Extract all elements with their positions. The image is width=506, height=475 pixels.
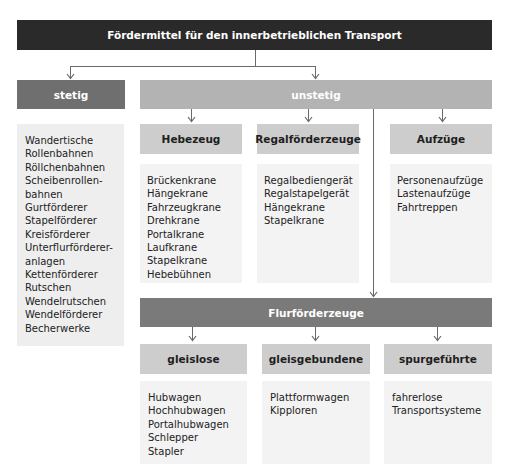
list-item: Becherwerke xyxy=(25,322,112,335)
hebezeug-list: Brückenkrane Hängekrane Fahrzeugkrane Dr… xyxy=(140,164,242,283)
list-item: Lastenaufzüge xyxy=(397,187,480,200)
list-item: Wandertische xyxy=(25,134,112,147)
diagram-title-text: Fördermittel für den innerbetrieblichen … xyxy=(107,29,402,41)
list-item: anlagen xyxy=(25,255,112,268)
category-unstetig: unstetig xyxy=(140,80,492,109)
list-item: Stapelförderer xyxy=(25,214,112,227)
list-item: Fahrzeugkrane xyxy=(147,201,230,214)
list-item: Portalkrane xyxy=(147,228,230,241)
group-gleisgebundene-label: gleisgebundene xyxy=(269,353,363,365)
list-item: Regalstapelgerät xyxy=(264,187,347,200)
group-spurgefuehrte: spurgeführte xyxy=(384,344,492,374)
list-item: Schlepper xyxy=(148,431,235,444)
list-item: Rollenbahnen xyxy=(25,147,112,160)
arrow-down-icon xyxy=(304,114,313,123)
list-item: Gurtförderer xyxy=(25,201,112,214)
list-item: Rutschen xyxy=(25,281,112,294)
group-aufzuege: Aufzüge xyxy=(390,124,492,154)
list-item: Wendelförderer xyxy=(25,308,112,321)
list-item: Brückenkrane xyxy=(147,174,230,187)
list-item: Wendelrutschen xyxy=(25,295,112,308)
list-item: Personenaufzüge xyxy=(397,174,480,187)
list-item: Kreisförderer xyxy=(25,228,112,241)
list-item: Portalhubwagen xyxy=(148,418,235,431)
gleisgebundene-list: Plattformwagen Kipploren xyxy=(262,381,370,464)
list-item: fahrerlose xyxy=(392,391,480,404)
list-item: Transportsysteme xyxy=(392,404,480,417)
arrow-down-icon xyxy=(438,114,447,123)
list-item: Scheibenrollen- xyxy=(25,174,112,187)
arrow-down-icon xyxy=(369,289,378,298)
connector xyxy=(70,66,316,67)
list-item: Stapelkrane xyxy=(264,214,347,227)
group-spurgefuehrte-label: spurgeführte xyxy=(399,353,477,365)
list-item: Hochhubwagen xyxy=(148,404,235,417)
group-hebezeug-label: Hebezeug xyxy=(162,133,221,145)
arrow-down-icon xyxy=(66,71,75,80)
connector xyxy=(255,50,256,67)
arrow-down-icon xyxy=(311,71,320,80)
category-flurfoerderzeuge-label: Flurförderzeuge xyxy=(268,307,364,319)
group-hebezeug: Hebezeug xyxy=(140,124,242,154)
list-item: Laufkrane xyxy=(147,241,230,254)
group-aufzuege-label: Aufzüge xyxy=(417,133,465,145)
arrow-down-icon xyxy=(187,114,196,123)
group-gleislose-label: gleislose xyxy=(167,353,219,365)
list-item: Drehkrane xyxy=(147,214,230,227)
connector xyxy=(373,109,374,296)
list-item: Hubwagen xyxy=(148,391,235,404)
list-item: Hebebühnen xyxy=(147,268,230,281)
list-item: Kettenförderer xyxy=(25,268,112,281)
gleislose-list: Hubwagen Hochhubwagen Portalhubwagen Sch… xyxy=(140,381,247,464)
list-item: Hängekrane xyxy=(147,187,230,200)
group-gleisgebundene: gleisgebundene xyxy=(262,344,370,374)
list-item: Unterflurförderer- xyxy=(25,241,112,254)
stetig-list: Wandertische Rollenbahnen Röllchenbahnen… xyxy=(17,124,124,346)
regalfoerderzeuge-list: Regalbediengerät Regalstapelgerät Hängek… xyxy=(257,164,359,283)
category-stetig: stetig xyxy=(17,80,125,109)
list-item: Hängekrane xyxy=(264,201,347,214)
arrow-down-icon xyxy=(433,333,442,342)
group-gleislose: gleislose xyxy=(140,344,247,374)
aufzuege-list: Personenaufzüge Lastenaufzüge Fahrtreppe… xyxy=(390,164,492,283)
list-item: Röllchenbahnen xyxy=(25,161,112,174)
list-item: Stapler xyxy=(148,445,235,458)
diagram-title: Fördermittel für den innerbetrieblichen … xyxy=(17,20,492,50)
spurgefuehrte-list: fahrerlose Transportsysteme xyxy=(384,381,492,464)
category-unstetig-label: unstetig xyxy=(291,89,340,101)
arrow-down-icon xyxy=(311,333,320,342)
arrow-down-icon xyxy=(188,333,197,342)
category-flurfoerderzeuge: Flurförderzeuge xyxy=(140,298,492,327)
list-item: Plattformwagen xyxy=(270,391,358,404)
group-regalfoerderzeuge: Regalförderzeuge xyxy=(257,124,359,154)
list-item: Stapelkrane xyxy=(147,254,230,267)
group-regalfoerderzeuge-label: Regalförderzeuge xyxy=(255,133,361,145)
list-item: Regalbediengerät xyxy=(264,174,347,187)
list-item: Fahrtreppen xyxy=(397,201,480,214)
list-item: Kipploren xyxy=(270,404,358,417)
category-stetig-label: stetig xyxy=(54,89,89,101)
list-item: bahnen xyxy=(25,188,112,201)
